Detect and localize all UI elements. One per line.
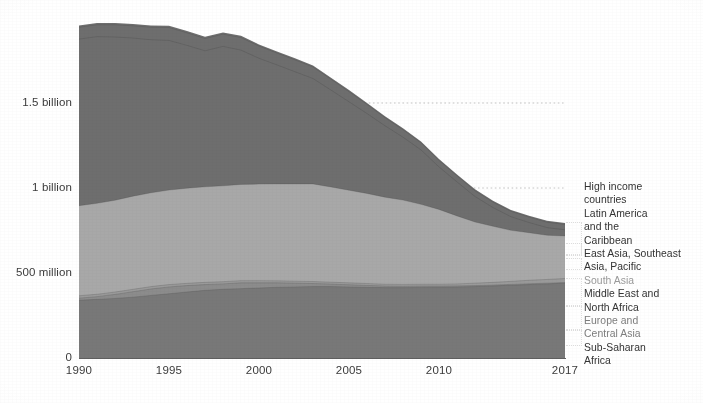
- x-tick-label: 2010: [411, 364, 467, 376]
- y-tick-label: 500 million: [0, 266, 72, 278]
- legend-entry: Europe and Central Asia: [584, 314, 702, 341]
- stacked-area-chart: 1.5 billion1 billion500 million0 1990199…: [0, 0, 703, 403]
- x-tick-label: 1995: [141, 364, 197, 376]
- y-tick-label: 0: [0, 351, 72, 363]
- x-tick-label: 1990: [51, 364, 107, 376]
- x-tick-label: 2000: [231, 364, 287, 376]
- legend-connector: [566, 278, 582, 306]
- plot-area: [79, 18, 565, 358]
- legend-entry: Sub-Saharan Africa: [584, 341, 702, 368]
- area-bands: [79, 23, 565, 358]
- y-tick-label: 1 billion: [0, 181, 72, 193]
- legend-entry: High income countries: [584, 180, 702, 207]
- legend-entry: East Asia, Southeast Asia, Pacific: [584, 247, 702, 274]
- legend-connector: [566, 306, 582, 330]
- x-axis-line: [79, 358, 566, 359]
- legend-connector: [566, 330, 582, 346]
- legend-entry: Middle East and North Africa: [584, 287, 702, 314]
- legend-connector: [566, 258, 582, 270]
- plot-svg: [79, 18, 565, 358]
- legend-entry: Latin America and the Caribbean: [584, 207, 702, 247]
- x-tick-label: 2005: [321, 364, 377, 376]
- legend-connector: [566, 243, 582, 255]
- y-tick-label: 1.5 billion: [0, 96, 72, 108]
- legend: High income countriesLatin America and t…: [584, 180, 702, 368]
- legend-entry: South Asia: [584, 274, 702, 287]
